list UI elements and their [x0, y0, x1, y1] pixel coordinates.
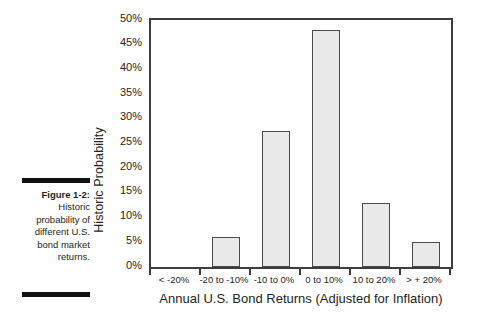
- x-axis-tick-label: 10 to 20%: [349, 274, 399, 285]
- caption-rule-bottom: [22, 292, 90, 297]
- bar: [412, 242, 440, 267]
- y-axis-title: Historic Probability: [92, 0, 106, 100]
- y-axis-tick-label: 20%: [120, 161, 142, 172]
- y-axis-tick-label: 35%: [120, 87, 142, 98]
- bar-slot: [251, 20, 301, 267]
- y-axis-tick-label: 10%: [120, 210, 142, 221]
- y-axis-tick-label: 0%: [126, 260, 142, 271]
- x-axis-tick-label: 0 to 10%: [299, 274, 349, 285]
- figure-caption-body: Historic probability of different U.S. b…: [22, 201, 90, 263]
- bar: [262, 131, 290, 267]
- x-axis-tick-label: -10 to 0%: [249, 274, 299, 285]
- x-axis-tick-label: < -20%: [149, 274, 199, 285]
- y-axis-title-text: Historic Probability: [92, 100, 106, 260]
- bar-slot: [151, 20, 201, 267]
- y-axis-tick-label: 15%: [120, 185, 142, 196]
- figure-caption-text: Figure 1-2: Historic probability of diff…: [22, 183, 90, 263]
- bar-slot: [351, 20, 401, 267]
- figure-caption-block: Figure 1-2: Historic probability of diff…: [22, 178, 90, 263]
- x-axis-tick-mark: [449, 267, 451, 275]
- bar-chart: Historic Probability 50%45%40%35%30%25%2…: [96, 8, 472, 318]
- y-axis-tick-label: 25%: [120, 136, 142, 147]
- bar: [312, 30, 340, 267]
- y-axis-tick-label: 30%: [120, 111, 142, 122]
- plot-area: [149, 18, 453, 269]
- bar-slot: [301, 20, 351, 267]
- x-axis-title: Annual U.S. Bond Returns (Adjusted for I…: [136, 291, 466, 306]
- bar-slot: [201, 20, 251, 267]
- bar: [362, 203, 390, 267]
- y-axis-tick-label: 50%: [120, 13, 142, 24]
- y-axis-tick-label: 45%: [120, 37, 142, 48]
- x-axis-tick-labels: < -20%-20 to -10%-10 to 0%0 to 10%10 to …: [149, 274, 449, 285]
- y-axis-tick-label: 5%: [126, 235, 142, 246]
- bar-series: [151, 20, 451, 267]
- figure-number-label: Figure 1-2:: [22, 189, 90, 201]
- bar: [212, 237, 240, 267]
- bar-slot: [401, 20, 451, 267]
- y-axis-tick-labels: 50%45%40%35%30%25%20%15%10%5%0%: [108, 8, 142, 270]
- x-axis-tick-label: > + 20%: [399, 274, 449, 285]
- y-axis-tick-label: 40%: [120, 62, 142, 73]
- x-axis-tick-label: -20 to -10%: [199, 274, 249, 285]
